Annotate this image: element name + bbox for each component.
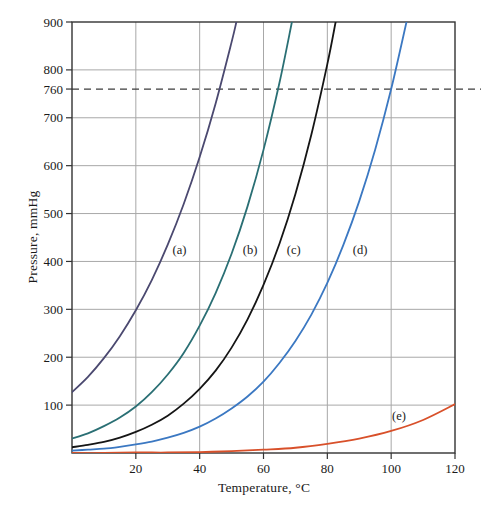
x-tick-label: 120 — [445, 461, 465, 476]
y-tick-label: 200 — [44, 350, 64, 365]
curve-c — [72, 22, 336, 447]
y-tick-label: 700 — [44, 110, 64, 125]
axis-ticks — [66, 22, 455, 459]
x-axis-title: Temperature, °C — [218, 480, 310, 496]
y-tick-label: 300 — [44, 302, 64, 317]
curve-label-b: (b) — [243, 243, 258, 257]
x-tick-label: 80 — [321, 461, 334, 476]
curve-labels: (a)(b)(c)(d)(e) — [173, 243, 406, 424]
curve-b — [72, 22, 292, 439]
curve-d — [72, 22, 406, 451]
y-axis-title: Pressure, mmHg — [25, 191, 41, 284]
y-tick-label-760: 760 — [44, 82, 64, 97]
curve-label-c: (c) — [287, 243, 301, 257]
x-tick-label: 20 — [129, 461, 142, 476]
chart-svg: 1002003004005006007008009007602040608010… — [0, 0, 485, 510]
x-tick-label: 40 — [193, 461, 206, 476]
vapor-pressure-chart: 1002003004005006007008009007602040608010… — [0, 0, 485, 510]
x-tick-label: 60 — [257, 461, 270, 476]
curve-label-a: (a) — [173, 243, 187, 257]
gridlines — [72, 22, 455, 453]
y-tick-label: 500 — [44, 206, 64, 221]
curve-label-e: (e) — [392, 409, 406, 423]
curve-a — [72, 22, 236, 392]
y-tick-label: 400 — [44, 254, 64, 269]
y-tick-label: 800 — [44, 62, 64, 77]
curve-label-d: (d) — [353, 243, 368, 257]
y-tick-label: 600 — [44, 158, 64, 173]
y-tick-label: 900 — [44, 15, 64, 30]
x-tick-label: 100 — [381, 461, 401, 476]
y-tick-label: 100 — [44, 398, 64, 413]
